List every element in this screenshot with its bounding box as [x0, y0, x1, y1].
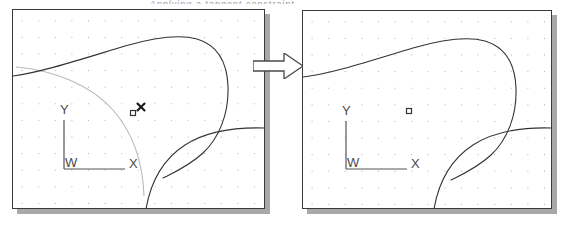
grid-dot: [88, 137, 89, 138]
lower-fillet-outline[interactable]: [146, 128, 264, 208]
grid-dot: [121, 203, 122, 204]
grid-dot: [378, 154, 379, 155]
transition-arrow: [253, 53, 303, 79]
grid-dot: [38, 20, 39, 21]
grid-dot: [154, 203, 155, 204]
cad-viewport-before[interactable]: YXW: [12, 9, 265, 209]
grid-dot: [527, 204, 528, 205]
grid-dot: [395, 154, 396, 155]
grid-dot: [138, 87, 139, 88]
cad-viewport-before-canvas[interactable]: YXW: [13, 10, 264, 208]
grid-dot: [361, 138, 362, 139]
grid-dot: [105, 170, 106, 171]
grid-dot: [361, 187, 362, 188]
grid-dot: [411, 21, 412, 22]
grid-dot: [188, 186, 189, 187]
grid-dot: [188, 20, 189, 21]
grid-dot: [527, 104, 528, 105]
grid-dot: [328, 138, 329, 139]
grid-dot: [461, 171, 462, 172]
grid-dot: [511, 38, 512, 39]
grid-dot: [494, 187, 495, 188]
grid-dot: [55, 54, 56, 55]
cad-viewport-after-canvas[interactable]: YXW: [303, 11, 551, 208]
grid-dot: [22, 186, 23, 187]
grid-dot: [345, 55, 346, 56]
grid-dot: [511, 138, 512, 139]
grid-dot: [71, 20, 72, 21]
grid-dot: [121, 87, 122, 88]
grid-dot: [171, 87, 172, 88]
grid-dot: [105, 70, 106, 71]
grid-dot: [121, 153, 122, 154]
grid-dot: [511, 154, 512, 155]
upper-body-outline[interactable]: [13, 37, 228, 178]
grid-dot: [171, 203, 172, 204]
grid-dot: [55, 120, 56, 121]
grid-dot: [55, 37, 56, 38]
grid-dot: [494, 38, 495, 39]
grid-dot: [444, 154, 445, 155]
grid-dot: [154, 54, 155, 55]
lower-fillet-outline[interactable]: [434, 128, 551, 208]
grid-dot: [88, 153, 89, 154]
grid-dot: [494, 171, 495, 172]
grid-dot: [38, 203, 39, 204]
grid-dot: [188, 170, 189, 171]
grid-dot: [55, 153, 56, 154]
x-axis-label: X: [411, 157, 420, 170]
grid-dot: [395, 138, 396, 139]
grid-dot: [154, 170, 155, 171]
cad-viewport-after[interactable]: YXW: [302, 10, 552, 209]
grid-dot: [312, 154, 313, 155]
grid-dot: [395, 121, 396, 122]
grid-dot: [88, 20, 89, 21]
grid-dot: [254, 20, 255, 21]
grid-dot: [411, 55, 412, 56]
grid-dot: [88, 54, 89, 55]
point-marker-square[interactable]: [407, 109, 412, 114]
point-marker-square[interactable]: [131, 111, 136, 116]
grid-dot: [55, 186, 56, 187]
grid-dot: [105, 54, 106, 55]
grid-dot: [494, 88, 495, 89]
grid-dot: [22, 20, 23, 21]
grid-dot: [121, 170, 122, 171]
grid-dot: [138, 120, 139, 121]
grid-dot: [237, 103, 238, 104]
grid-dot: [254, 186, 255, 187]
grid-dot: [544, 171, 545, 172]
grid-dot: [428, 38, 429, 39]
grid-dot: [511, 55, 512, 56]
grid-dot: [428, 88, 429, 89]
grid-dot: [511, 71, 512, 72]
grid-dot: [22, 170, 23, 171]
grid-dot: [411, 88, 412, 89]
grid-dot: [55, 137, 56, 138]
grid-dot: [55, 170, 56, 171]
grid-dot: [204, 103, 205, 104]
grid-dot: [237, 20, 238, 21]
grid-dot: [511, 187, 512, 188]
grid-dot: [544, 187, 545, 188]
grid-dot: [478, 171, 479, 172]
y-axis-label: Y: [342, 104, 351, 117]
grid-dot: [527, 21, 528, 22]
grid-dot: [121, 20, 122, 21]
upper-body-outline[interactable]: [303, 39, 516, 180]
grid-dot: [204, 20, 205, 21]
grid-dot: [478, 55, 479, 56]
grid-dot: [544, 121, 545, 122]
grid-dot: [38, 186, 39, 187]
grid-dot: [361, 104, 362, 105]
grid-dot: [478, 138, 479, 139]
grid-dot: [204, 203, 205, 204]
markers-group: [407, 109, 412, 114]
grid-dot: [121, 70, 122, 71]
grid-dot: [154, 186, 155, 187]
grid-dot: [478, 71, 479, 72]
grid-dot: [221, 54, 222, 55]
grid-dot: [411, 71, 412, 72]
cursor-crosshair[interactable]: [138, 104, 145, 111]
grid-dot: [444, 104, 445, 105]
